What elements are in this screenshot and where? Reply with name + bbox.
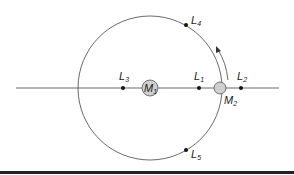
point-l1-label: L1: [194, 70, 204, 83]
point-l5-label: L5: [191, 148, 201, 161]
body-m2-label: M2: [224, 94, 237, 107]
point-l3-label: L3: [119, 70, 129, 83]
point-l3: [121, 86, 125, 90]
arrowhead-icon: [216, 46, 221, 53]
lagrange-diagram: M1 M2 L1 L2 L3 L4 L5: [0, 0, 294, 175]
diagram-canvas: M1 M2 L1 L2 L3 L4 L5: [0, 0, 294, 175]
bottom-rule: [0, 171, 294, 174]
point-l1: [197, 86, 201, 90]
rotation-arrow: [218, 50, 228, 80]
point-l2: [239, 86, 243, 90]
point-l4-label: L4: [191, 14, 201, 27]
point-l4: [184, 23, 188, 27]
point-l2-label: L2: [237, 70, 247, 83]
body-m2: [214, 82, 226, 94]
point-l5: [184, 148, 188, 152]
